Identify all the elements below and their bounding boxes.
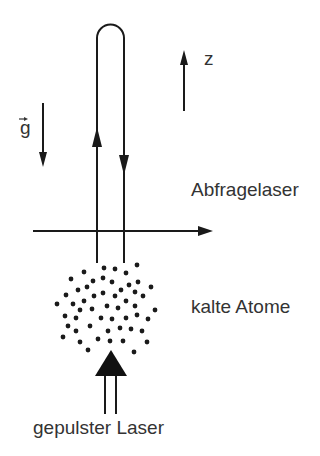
atom-dot <box>110 280 115 285</box>
atom-dot <box>153 308 158 313</box>
atom-dot <box>106 329 111 334</box>
atom-dot <box>118 326 123 331</box>
atom-dot <box>124 316 129 321</box>
trajectory-up-arrow-icon <box>92 127 102 147</box>
atom-dot <box>129 327 134 332</box>
atom-dot <box>78 340 83 345</box>
z-axis-label: z <box>204 49 214 68</box>
atom-dot <box>74 316 79 321</box>
atom-dot <box>101 276 106 281</box>
fountain-diagram <box>0 0 320 456</box>
atom-dot <box>96 337 101 342</box>
atom-dot <box>85 285 90 290</box>
atom-dot <box>71 302 76 307</box>
atom-dot <box>82 270 87 275</box>
atom-dot <box>135 313 140 318</box>
atom-dot <box>91 279 96 284</box>
probe-laser-label: Abfragelaser <box>191 180 299 199</box>
gravity-arrow-icon <box>39 152 47 167</box>
atom-dot <box>141 294 146 299</box>
pulsed-laser-arrow-icon <box>95 350 127 376</box>
atom-dot <box>135 263 140 268</box>
atom-dot <box>108 339 113 344</box>
atom-dot <box>146 317 151 322</box>
atom-dot <box>140 329 145 334</box>
atom-dot <box>127 283 132 288</box>
z-axis-arrow-icon <box>180 50 188 65</box>
atom-dot <box>102 266 107 271</box>
atom-dot <box>116 306 121 311</box>
atom-dot <box>66 324 71 329</box>
atom-dot <box>133 304 138 309</box>
atom-dot <box>119 288 124 293</box>
atom-dot <box>86 348 91 353</box>
atom-dot <box>90 307 95 312</box>
atom-dot <box>133 290 138 295</box>
pulsed-laser-label: gepulster Laser <box>33 418 164 437</box>
atom-dot <box>101 291 106 296</box>
atom-dot <box>61 335 66 340</box>
atom-dot <box>124 299 129 304</box>
atom-dot <box>88 324 93 329</box>
atom-dot <box>64 293 69 298</box>
atom-dot <box>113 294 118 299</box>
atom-dot <box>82 299 87 304</box>
gravity-label: g <box>20 118 31 137</box>
atom-dot <box>78 308 83 313</box>
atom-dot <box>110 317 115 322</box>
atom-dot <box>76 288 81 293</box>
atom-dot <box>55 302 60 307</box>
atom-dot <box>105 304 110 309</box>
atom-dot <box>121 339 126 344</box>
atom-dot <box>136 280 141 285</box>
atom-dot <box>132 350 137 355</box>
atom-dot <box>63 314 68 319</box>
probe-laser-arrow-icon <box>198 226 213 236</box>
atom-dot <box>149 285 154 290</box>
atom-dot <box>74 329 79 334</box>
atom-cloud <box>55 263 158 355</box>
atom-dot <box>92 294 97 299</box>
cold-atoms-label: kalte Atome <box>191 297 290 316</box>
atom-dot <box>99 316 104 321</box>
atom-dot <box>69 277 74 282</box>
trajectory-down-arrow-icon <box>119 155 129 175</box>
atom-dot <box>145 340 150 345</box>
atom-dot <box>113 267 118 272</box>
atom-dot <box>124 271 129 276</box>
